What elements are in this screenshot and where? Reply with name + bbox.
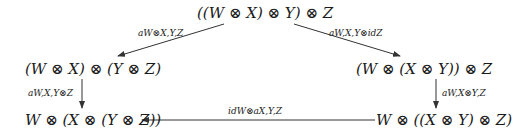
node-left: (W ⊗ X) ⊗ (Y ⊗ Z) — [25, 60, 161, 78]
label-left-to-bottom-left: aW,X,Y⊗Z — [28, 88, 73, 99]
node-bottom-left: W ⊗ (X ⊗ (Y ⊗ Z)) — [25, 111, 161, 129]
label-bottom-right-to-bottom-left: idW⊗aX,Y,Z — [228, 106, 282, 117]
node-top: ((W ⊗ X) ⊗ Y) ⊗ Z — [197, 4, 333, 22]
node-right: (W ⊗ (X ⊗ Y)) ⊗ Z — [356, 60, 492, 78]
label-top-to-left: aW⊗X,Y,Z — [138, 28, 183, 39]
label-top-to-right: aW,X,Y⊗idZ — [329, 28, 383, 39]
node-bottom-right: W ⊗ ((X ⊗ Y) ⊗ Z) — [376, 111, 512, 129]
label-right-to-bottom-right: aW,X⊗Y,Z — [442, 88, 486, 99]
